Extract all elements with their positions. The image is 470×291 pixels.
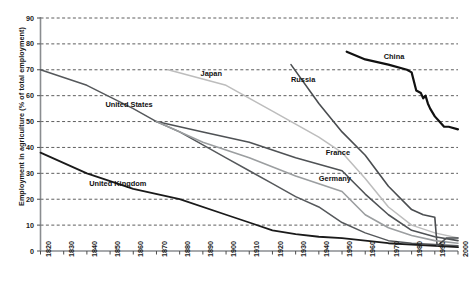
x-tick-label: 1970: [392, 241, 401, 257]
x-tick-label: 1830: [67, 241, 76, 257]
y-tick-label: 70: [8, 65, 34, 74]
series-line-china: [347, 52, 458, 130]
x-tick-label: 1850: [113, 241, 122, 257]
y-tick-label: 90: [8, 14, 34, 23]
x-tick-label: 1910: [252, 241, 261, 257]
x-tick-label: 1920: [276, 241, 285, 257]
x-tick-label: 1980: [415, 241, 424, 257]
series-line-russia: [291, 65, 458, 246]
x-tick-label: 1940: [322, 241, 331, 257]
x-tick-label: 1860: [136, 241, 145, 257]
series-label-china: China: [384, 52, 405, 61]
y-tick-label: 60: [8, 91, 34, 100]
series-label-united-kingdom: United Kingdom: [89, 179, 146, 188]
series-label-germany: Germany: [319, 174, 351, 183]
x-tick-label: 2000: [461, 241, 470, 257]
x-tick-label: 1820: [44, 241, 53, 257]
y-tick-label: 40: [8, 143, 34, 152]
x-tick-label: 1950: [345, 241, 354, 257]
y-tick-label: 0: [8, 247, 34, 256]
x-tick-label: 1960: [368, 241, 377, 257]
y-tick-label: 80: [8, 39, 34, 48]
series-label-russia: Russia: [291, 75, 315, 84]
y-tick-label: 20: [8, 195, 34, 204]
y-tick-label: 50: [8, 117, 34, 126]
x-tick-label: 1870: [160, 241, 169, 257]
series-line-france: [156, 122, 458, 241]
x-tick-label: 1890: [206, 241, 215, 257]
x-tick-label: 1880: [183, 241, 192, 257]
x-tick-label: 1900: [229, 241, 238, 257]
x-tick-label: 1990: [438, 241, 447, 257]
series-line-united-kingdom: [41, 153, 459, 248]
series-label-united-states: United States: [105, 100, 139, 109]
series-label-france: France: [326, 148, 350, 157]
x-tick-label: 1930: [299, 241, 308, 257]
y-tick-label: 30: [8, 169, 34, 178]
y-tick-label: 10: [8, 221, 34, 230]
data-series-lines: [41, 52, 459, 247]
series-label-japan: Japan: [201, 69, 222, 78]
x-tick-label: 1840: [90, 241, 99, 257]
